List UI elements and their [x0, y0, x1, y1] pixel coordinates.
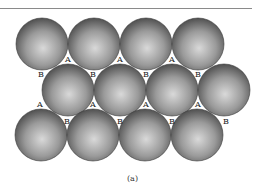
top-rule-divider: [0, 8, 252, 9]
site-label-a: A: [168, 55, 175, 64]
site-label-a: A: [194, 100, 201, 109]
figure-caption: (a): [0, 174, 265, 183]
site-label-a: A: [36, 100, 43, 109]
sphere: [16, 18, 68, 70]
sphere: [172, 18, 224, 70]
site-label-b: B: [169, 117, 175, 126]
sphere: [42, 64, 94, 116]
sphere: [171, 109, 223, 161]
sphere: [68, 18, 120, 70]
sphere: [15, 109, 67, 161]
sphere: [67, 109, 119, 161]
site-label-b: B: [64, 117, 70, 126]
site-label-a: A: [142, 100, 149, 109]
site-label-a: A: [89, 100, 96, 109]
site-label-b: B: [90, 70, 96, 79]
site-label-b: B: [38, 70, 44, 79]
site-label-a: A: [64, 55, 71, 64]
close-packing-figure: AAABBBBAAAABBBB (a): [0, 0, 265, 189]
sphere-layer-diagram: AAABBBBAAAABBBB: [0, 0, 265, 189]
site-label-b: B: [143, 70, 149, 79]
sphere: [119, 109, 171, 161]
site-label-b: B: [223, 117, 229, 126]
sphere: [198, 64, 250, 116]
sphere: [94, 64, 146, 116]
site-label-a: A: [116, 55, 123, 64]
sphere: [120, 18, 172, 70]
sphere: [146, 64, 198, 116]
site-label-b: B: [117, 117, 123, 126]
site-label-b: B: [195, 70, 201, 79]
